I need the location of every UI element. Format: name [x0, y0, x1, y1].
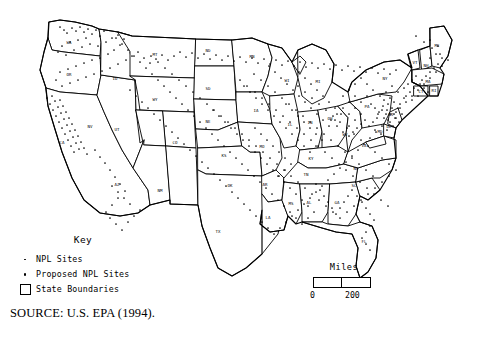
npl-site-dot — [105, 41, 107, 43]
state-label-ma: MA — [426, 79, 431, 84]
npl-site-dot — [323, 133, 325, 135]
npl-site-dot — [366, 95, 368, 97]
npl-site-dot — [429, 39, 431, 41]
npl-site-dot — [439, 53, 441, 55]
scale-bar-graphic — [313, 277, 371, 288]
npl-site-dot — [367, 193, 369, 195]
npl-site-dot — [179, 51, 181, 53]
source-note: SOURCE: U.S. EPA (1994). — [10, 306, 155, 321]
npl-site-dot — [340, 113, 342, 115]
npl-site-dot — [73, 49, 75, 51]
npl-site-dot — [169, 91, 171, 93]
npl-site-dot — [403, 97, 405, 99]
state-label-ga: GA — [335, 200, 340, 205]
npl-site-dot — [328, 101, 330, 103]
npl-site-dot — [411, 95, 413, 97]
npl-site-dot — [388, 163, 390, 165]
state-label-ia: IA — [254, 108, 259, 113]
npl-site-dot — [248, 145, 250, 147]
npl-site-dot — [266, 163, 268, 165]
map-figure: WAORCANVIDMTWYUTAZCONMNDSDNEKSOKTXMNIAMO… — [0, 0, 481, 341]
npl-site-dot — [274, 71, 276, 73]
npl-site-dot — [321, 139, 323, 141]
npl-site-dot — [435, 53, 437, 55]
npl-site-dot — [205, 127, 207, 129]
npl-site-dot — [123, 197, 125, 199]
npl-site-dot — [129, 89, 131, 91]
npl-site-dot — [69, 130, 71, 132]
state-label-ky: KY — [309, 156, 314, 161]
npl-site-dot — [295, 109, 297, 111]
npl-site-dot — [325, 205, 327, 207]
npl-site-dot — [359, 181, 361, 183]
npl-site-dot — [46, 97, 48, 99]
npl-site-dot — [185, 85, 187, 87]
npl-site-dot — [348, 125, 350, 127]
npl-site-dot — [236, 133, 238, 135]
state-boundary-square-icon — [14, 284, 36, 295]
npl-site-dot — [335, 64, 337, 66]
npl-site-dot — [311, 193, 313, 195]
state-label-nd: ND — [206, 48, 211, 53]
npl-site-dot — [419, 83, 421, 85]
npl-site-dot — [61, 85, 63, 87]
npl-site-dot — [91, 59, 93, 61]
npl-site-dot — [139, 61, 141, 63]
npl-site-dot — [268, 65, 270, 67]
npl-site-dot — [301, 223, 303, 225]
npl-site-dot — [377, 72, 379, 74]
npl-site-dot — [417, 89, 419, 91]
state-label-az: AZ — [115, 182, 120, 187]
npl-site-dot — [207, 167, 209, 169]
npl-site-dot — [249, 91, 251, 93]
state-label-mo: MO — [260, 144, 265, 149]
npl-site-dot — [157, 79, 159, 81]
npl-site-dot — [271, 193, 273, 195]
state-label-tx: TX — [216, 229, 221, 234]
npl-site-dot — [127, 221, 129, 223]
npl-site-dot — [261, 221, 263, 223]
npl-site-dot — [178, 79, 180, 81]
npl-site-dot — [78, 148, 80, 150]
npl-site-dot — [379, 95, 381, 97]
npl-site-dot — [191, 52, 193, 54]
npl-site-dot — [441, 57, 443, 59]
npl-site-dot — [405, 101, 407, 103]
npl-site-dot — [298, 71, 300, 73]
npl-site-dot — [381, 157, 383, 159]
npl-site-dot — [135, 95, 137, 97]
npl-site-dot — [245, 61, 247, 63]
npl-site-dot — [255, 145, 257, 147]
npl-site-dot — [363, 143, 365, 145]
npl-site-dot — [95, 29, 97, 31]
npl-site-dot — [365, 231, 367, 233]
npl-site-dot — [321, 185, 323, 187]
npl-site-dot — [323, 195, 325, 197]
npl-site-dot — [307, 205, 309, 207]
npl-site-dot — [348, 135, 350, 137]
npl-site-dot — [364, 119, 366, 121]
npl-site-dot — [220, 115, 222, 117]
npl-site-dot — [369, 249, 371, 251]
npl-site-dot — [115, 223, 117, 225]
npl-site-dot — [304, 91, 306, 93]
npl-site-dot — [341, 69, 343, 71]
npl-site-dot — [292, 89, 294, 91]
npl-site-dot — [195, 155, 197, 157]
npl-site-dot — [378, 111, 380, 113]
state-label-id: ID — [113, 76, 118, 81]
npl-site-dot — [437, 63, 439, 65]
npl-site-dot — [347, 195, 349, 197]
npl-site-dot — [309, 121, 311, 123]
npl-site-dot — [255, 97, 257, 99]
npl-site-dot — [425, 75, 427, 77]
npl-site-dot — [59, 71, 61, 73]
npl-site-dot — [295, 193, 297, 195]
npl-site-dot — [64, 133, 66, 135]
npl-site-dot — [352, 175, 354, 177]
scale-bar-labels: 0 200 — [309, 290, 379, 301]
npl-site-dot — [273, 233, 275, 235]
legend-item-state-boundaries: State Boundaries — [14, 282, 184, 297]
npl-site-dot — [299, 61, 301, 63]
npl-site-dot — [354, 83, 356, 85]
